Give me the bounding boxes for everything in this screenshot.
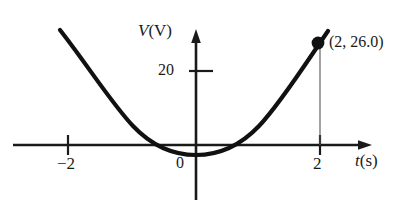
x-axis-label: t(s) [355, 152, 378, 169]
x-tick-label-2: 2 [313, 155, 322, 172]
x-axis-arrowhead [358, 140, 372, 150]
y-axis [191, 29, 201, 200]
graph-figure: V(V) 20 −2 2 0 t(s) (2, 26.0) [0, 0, 401, 200]
y-axis-arrowhead [191, 29, 201, 43]
y-tick-label-20: 20 [158, 62, 174, 78]
y-axis-label: V(V) [138, 22, 172, 39]
parabola-curve [60, 30, 328, 155]
x-tick-label-neg2: −2 [57, 155, 75, 172]
data-point-marker [312, 37, 325, 50]
origin-label: 0 [176, 155, 184, 171]
x-axis [13, 140, 372, 150]
point-annotation-label: (2, 26.0) [329, 34, 384, 50]
